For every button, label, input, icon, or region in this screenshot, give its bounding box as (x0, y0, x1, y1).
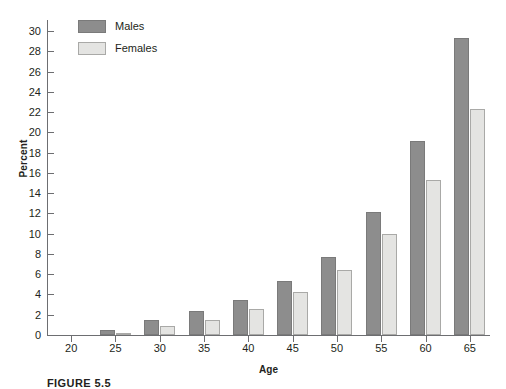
bar-males-age-40 (233, 300, 248, 335)
x-axis-tick-label: 65 (464, 342, 476, 354)
y-axis-tick-label: 16 (15, 167, 41, 178)
bar-males-age-25 (100, 330, 115, 335)
x-axis-tick-label: 50 (331, 342, 343, 354)
y-axis-tick-label: 10 (15, 228, 41, 239)
y-axis-tick-label: 12 (15, 208, 41, 219)
y-axis-tick-label: 8 (15, 248, 41, 259)
bar-females-age-65 (470, 109, 485, 335)
bar-males-age-55 (366, 212, 381, 335)
x-axis-tick-label: 35 (198, 342, 210, 354)
y-axis-tick (48, 315, 54, 316)
x-axis-tick-label: 40 (242, 342, 254, 354)
bar-males-age-30 (144, 320, 159, 335)
y-axis-tick (48, 173, 54, 174)
y-axis-tick (48, 31, 54, 32)
bar-females-age-60 (426, 180, 441, 335)
bar-males-age-50 (321, 257, 336, 335)
bar-females-age-55 (382, 234, 397, 335)
y-axis-tick (48, 254, 54, 255)
y-axis-tick (48, 132, 54, 133)
x-axis-line (47, 335, 490, 336)
bar-females-age-45 (293, 292, 308, 335)
y-axis-tick-label: 18 (15, 147, 41, 158)
y-axis-tick (48, 193, 54, 194)
y-axis-tick-label: 26 (15, 66, 41, 77)
y-axis-tick (48, 274, 54, 275)
y-axis-tick (48, 92, 54, 93)
y-axis-line (47, 20, 48, 336)
bar-females-age-40 (249, 309, 264, 335)
y-axis-tick (48, 153, 54, 154)
y-axis-tick (48, 213, 54, 214)
y-axis-tick-label: 6 (15, 269, 41, 280)
bar-females-age-25 (116, 333, 131, 335)
y-axis-tick (48, 335, 54, 336)
x-axis-tick-label: 45 (287, 342, 299, 354)
bar-males-age-45 (277, 281, 292, 335)
bar-males-age-60 (410, 141, 425, 335)
y-axis-tick-label: 2 (15, 309, 41, 320)
y-axis-tick (48, 112, 54, 113)
y-axis-tick-label: 28 (15, 46, 41, 57)
bar-females-age-30 (160, 326, 175, 335)
y-axis-tick-label: 20 (15, 127, 41, 138)
y-axis-tick-label: 22 (15, 107, 41, 118)
x-axis-tick-label: 55 (375, 342, 387, 354)
y-axis-tick (48, 72, 54, 73)
y-axis-tick-label: 4 (15, 289, 41, 300)
bar-males-age-65 (454, 38, 469, 335)
plot-area: 024681012141618202224262830 202530354045… (47, 20, 490, 336)
x-axis-tick-label: 20 (65, 342, 77, 354)
y-axis-tick-label: 30 (15, 26, 41, 37)
x-axis-tick-label: 60 (419, 342, 431, 354)
x-axis-tick-label: 25 (109, 342, 121, 354)
y-axis-tick-label: 0 (15, 330, 41, 341)
bar-males-age-35 (189, 311, 204, 335)
y-axis-tick-label: 14 (15, 188, 41, 199)
y-axis-tick (48, 294, 54, 295)
x-axis-title: Age (47, 364, 490, 375)
y-axis-tick-label: 24 (15, 86, 41, 97)
figure-caption: FIGURE 5.5 (47, 377, 111, 389)
bar-females-age-35 (205, 320, 220, 335)
x-axis-tick-label: 30 (154, 342, 166, 354)
y-axis-tick (48, 234, 54, 235)
bar-females-age-50 (337, 270, 352, 335)
y-axis-tick (48, 51, 54, 52)
